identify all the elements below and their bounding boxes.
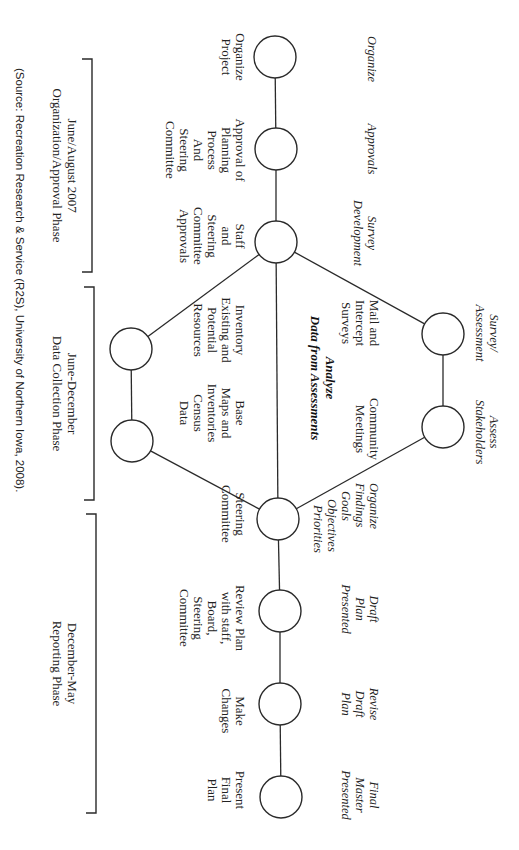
action-label-n5-line: Steering (191, 596, 206, 640)
task-label-n5-line: Plan (353, 596, 367, 621)
action-label-l1-line: Resources (191, 303, 206, 356)
action-label-u2: CommunityMeetings (353, 398, 382, 461)
source-text: (Source: Recreation Research & Service (… (14, 68, 26, 492)
phase-3-label: December-MayReporting Phase (50, 621, 80, 707)
action-label-n2: Approval ofPlanningProcessAndSteeringCom… (163, 118, 248, 182)
action-label-n4: SteeringCommittee (219, 485, 248, 543)
phase-1-bracket (82, 59, 92, 272)
node-n7 (260, 776, 302, 818)
node-l1 (110, 328, 152, 370)
action-label-n3: StaffandSteeringCommitteeApprovals (177, 207, 248, 265)
task-label-u2-line: Assess (487, 415, 501, 449)
action-label-u2-line: Meetings (353, 405, 368, 453)
action-label-u1: Mail andInterceptSurveys (339, 300, 382, 347)
action-label-n4-line: Committee (219, 485, 234, 543)
task-label-u1: Survey/Assessment (473, 304, 501, 362)
phase-2-label: June-DecemberData Collection Phase (50, 336, 80, 452)
action-label-l1-line: Inventory (233, 305, 248, 356)
phase-3-label-line: December-May (65, 623, 80, 705)
action-label-n3-line: Committee (191, 207, 206, 265)
action-label-n3-line: and (219, 227, 234, 246)
action-label-n2-line: Process (205, 130, 220, 170)
action-label-n5-line: Review Plan (233, 585, 248, 652)
source-caption: (Source: Recreation Research & Service (… (14, 68, 26, 492)
action-label-n5: Review Planwith staff,Board,SteeringComm… (177, 585, 248, 652)
phases-layer: June/August 2007Organization/Approval Ph… (50, 59, 96, 813)
node-n6 (259, 683, 301, 725)
node-n4 (257, 498, 299, 540)
action-label-l2-line: Inventories (205, 384, 220, 442)
task-label-n2-line: Approvals (365, 123, 379, 175)
task-label-n3: SurveyDevelopment (351, 199, 379, 266)
action-label-n1: OrganizeProject (219, 33, 248, 81)
node-l2 (111, 420, 153, 462)
task-label-u2: AssessStakeholders (473, 400, 501, 465)
phase-2-label-line: June-December (65, 353, 80, 435)
task-label-u2-line: Stakeholders (473, 400, 487, 465)
node-n1 (254, 36, 296, 78)
task-label-n4-line: Objectives (325, 499, 339, 552)
action-label-n1-line: Project (219, 39, 234, 76)
action-label-n5-line: Committee (177, 589, 192, 647)
node-n3 (255, 221, 297, 263)
center-label-line: Data from Assessments (308, 315, 323, 440)
task-label-n2: Approvals (365, 123, 379, 175)
task-label-n4: OrganizeFindingsGoalsObjectivesPrioritie… (311, 482, 381, 553)
phase-1-label-line: June/August 2007 (65, 118, 80, 213)
node-u2 (422, 406, 464, 448)
source-text-line: (Source: Recreation Research & Service (… (14, 68, 26, 492)
task-label-n5-line: Draft (367, 594, 381, 623)
phase-1-label: June/August 2007Organization/Approval Ph… (50, 89, 80, 243)
action-label-u1-line: Mail and (367, 300, 382, 347)
task-label-n6-line: Revise (367, 687, 381, 721)
task-label-n4-line: Organize (367, 483, 381, 530)
edge-l1-l2 (131, 370, 132, 420)
action-label-n4-line: Steering (233, 492, 248, 536)
edge-n4-n5 (278, 540, 279, 590)
diagram-canvas: OrganizeOrganizeProjectApprovalsApproval… (0, 0, 519, 850)
action-label-n2-line: Approval of (233, 118, 248, 182)
action-label-u1-line: Intercept (353, 300, 368, 347)
phase-3-label-line: Reporting Phase (50, 621, 65, 707)
task-label-n7-line: Master (353, 776, 367, 813)
edges-layer (131, 78, 443, 776)
action-label-n2-line: Committee (163, 121, 178, 179)
phase-2-label-line: Data Collection Phase (50, 336, 65, 452)
edge-n3-n4 (276, 263, 278, 498)
action-label-n2-line: And (191, 139, 206, 162)
action-label-n2-line: Planning (219, 127, 234, 174)
action-label-l2: BaseMaps andInventoriesCensusData (177, 384, 248, 442)
action-label-n6: MakeChanges (219, 689, 248, 734)
action-label-n7-line: Plan (205, 778, 220, 802)
action-label-n5-line: Board, (205, 600, 220, 635)
action-label-l1: InventoryExisting andPotentialResources (191, 297, 248, 363)
task-label-n3-line: Development (351, 199, 365, 266)
task-label-n5: DraftPlanPresented (339, 583, 381, 634)
edge-n1-n2 (275, 78, 276, 128)
action-label-l1-line: Existing and (219, 297, 234, 363)
center-label: AnalyzeData from Assessments (308, 315, 338, 440)
task-label-u1-line: Assessment (473, 304, 487, 362)
action-label-l2-line: Maps and (219, 388, 234, 439)
task-label-n6: ReviseDraftPlan (339, 687, 381, 721)
task-label-n1: Organize (365, 36, 379, 83)
task-label-n4-line: Findings (353, 482, 367, 528)
task-label-u1-line: Survey/ (487, 314, 501, 353)
task-label-n3-line: Survey (365, 216, 379, 250)
task-label-n4-line: Goals (339, 491, 353, 521)
task-label-n1-line: Organize (365, 36, 379, 83)
node-n2 (255, 128, 297, 170)
edge-n6-n7 (280, 725, 281, 776)
task-label-n5-line: Presented (339, 583, 353, 634)
task-label-n6-line: Plan (339, 691, 353, 716)
center-label-line: Analyze (323, 356, 338, 400)
action-label-n2-line: Steering (177, 128, 192, 172)
process-diagram: OrganizeOrganizeProjectApprovalsApproval… (0, 0, 519, 850)
action-label-l2-line: Data (177, 401, 192, 426)
task-label-n7-line: Final (367, 780, 381, 809)
action-label-n7-line: Final (219, 777, 234, 804)
node-n5 (259, 590, 301, 632)
task-label-n4-line: Priorities (311, 504, 325, 553)
task-label-n7: FinalMasterPresented (339, 769, 381, 820)
task-label-n7-line: Presented (339, 769, 353, 820)
